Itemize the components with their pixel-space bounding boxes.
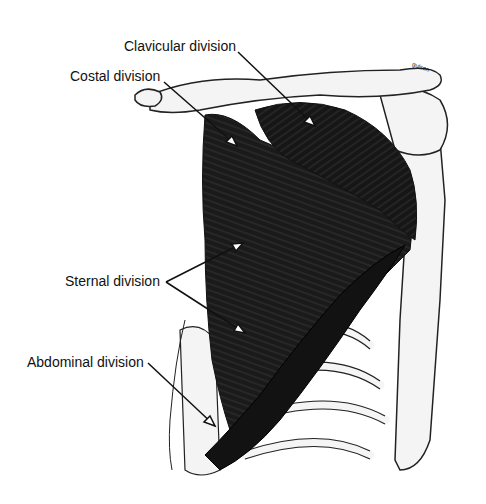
label-clavicular-division: Clavicular division <box>124 38 236 54</box>
label-sternal-division: Sternal division <box>65 273 160 289</box>
label-abdominal-division: Abdominal division <box>27 354 144 370</box>
anatomy-diagram: Clavicular division Costal division Ster… <box>0 0 486 504</box>
label-costal-division: Costal division <box>70 68 160 84</box>
